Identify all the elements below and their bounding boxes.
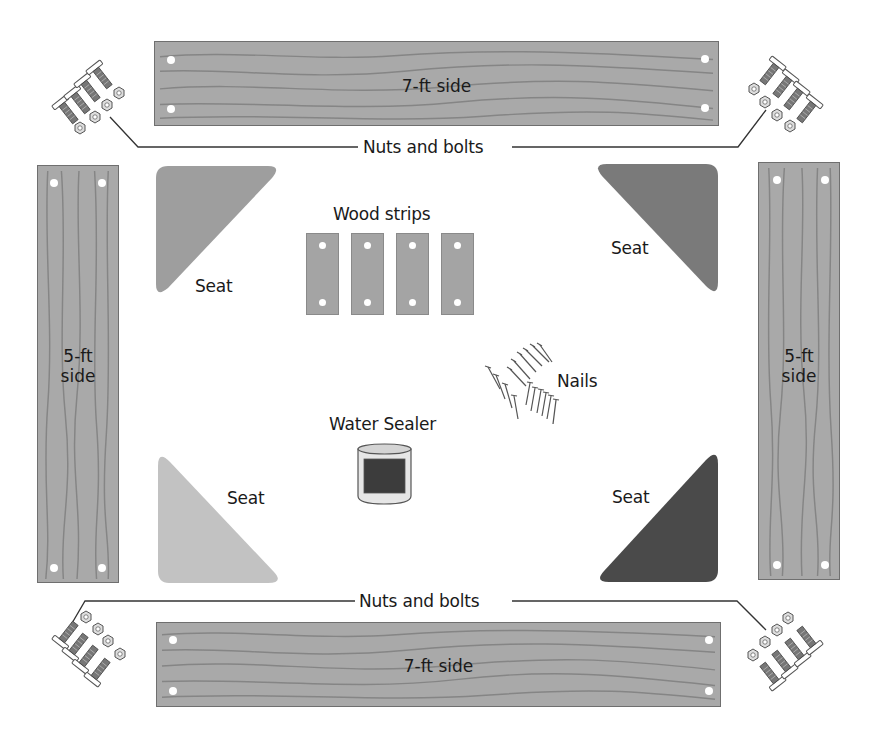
water-sealer-can-icon [0, 0, 871, 737]
nuts-and-bolts-top-label: Nuts and bolts [363, 139, 483, 156]
nuts-and-bolts-bottom-label: Nuts and bolts [359, 593, 479, 610]
